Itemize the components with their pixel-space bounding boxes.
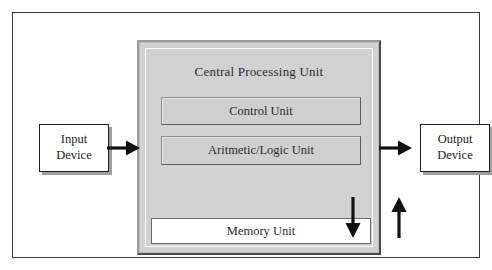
- arithmetic-logic-unit-box: Aritmetic/Logic Unit: [161, 136, 361, 165]
- output-device-box: Output Device: [420, 124, 490, 172]
- cpu-to-output-arrow: [379, 137, 413, 159]
- memory-unit-label: Memory Unit: [227, 224, 295, 239]
- input-device-label-line1: Input: [61, 132, 87, 148]
- cpu-title: Central Processing Unit: [139, 64, 379, 80]
- output-device-label-line1: Output: [438, 132, 473, 148]
- input-device-box: Input Device: [39, 124, 109, 172]
- arithmetic-logic-unit-label: Aritmetic/Logic Unit: [208, 143, 314, 158]
- control-unit-box: Control Unit: [161, 97, 361, 125]
- input-to-cpu-arrow: [107, 137, 141, 159]
- diagram-canvas: Central Processing Unit Control Unit Ari…: [0, 0, 492, 270]
- memory-to-cpu-arrow: [391, 197, 407, 239]
- output-device-label-line2: Device: [437, 148, 472, 164]
- cpu-to-memory-arrow: [345, 197, 361, 239]
- control-unit-label: Control Unit: [229, 104, 293, 119]
- central-processing-unit-box: Central Processing Unit Control Unit Ari…: [137, 40, 381, 255]
- diagram-outer-frame: Central Processing Unit Control Unit Ari…: [12, 12, 480, 258]
- memory-unit-box: Memory Unit: [151, 218, 371, 244]
- input-device-label-line2: Device: [56, 148, 91, 164]
